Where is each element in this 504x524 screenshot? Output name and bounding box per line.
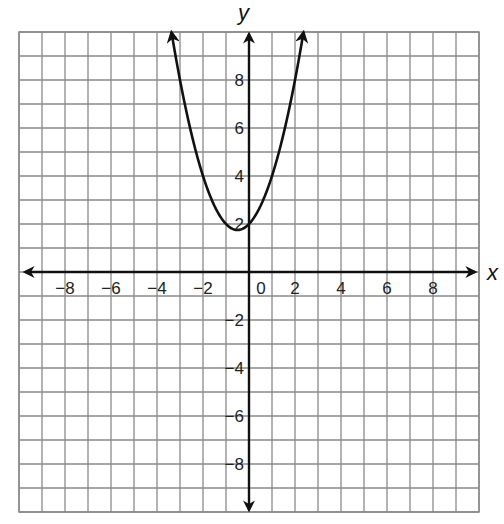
x-tick-label: 8 xyxy=(428,279,437,298)
y-tick-label: −2 xyxy=(225,311,244,330)
coordinate-plane-chart: −8−6−4−202468 8642−2−4−6−8 x y xyxy=(0,0,504,524)
x-tick-label: −2 xyxy=(193,279,212,298)
y-tick-label: 2 xyxy=(235,215,244,234)
y-tick-label: 6 xyxy=(235,119,244,138)
y-tick-label: −6 xyxy=(225,407,244,426)
y-axis-label: y xyxy=(236,0,251,25)
y-tick-label: −4 xyxy=(225,359,244,378)
x-tick-label: 0 xyxy=(256,279,265,298)
x-tick-label: −6 xyxy=(101,279,120,298)
axes xyxy=(25,34,475,510)
x-tick-label: 6 xyxy=(382,279,391,298)
y-tick-label: 4 xyxy=(235,167,244,186)
x-axis-label: x xyxy=(486,260,499,285)
x-tick-label: −4 xyxy=(147,279,166,298)
x-tick-label: −8 xyxy=(55,279,74,298)
y-tick-label: 8 xyxy=(235,71,244,90)
x-tick-label: 2 xyxy=(290,279,299,298)
y-tick-label: −8 xyxy=(225,455,244,474)
x-tick-labels: −8−6−4−202468 xyxy=(55,279,437,298)
x-tick-label: 4 xyxy=(336,279,345,298)
